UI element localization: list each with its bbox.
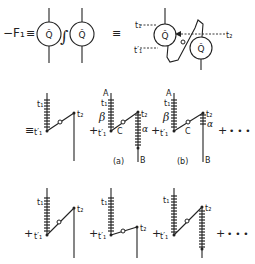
svg-text:t′₁: t′₁	[160, 232, 168, 241]
svg-text:t₁: t₁	[164, 99, 170, 108]
svg-text:A: A	[166, 89, 172, 98]
label-a: (a)	[113, 157, 124, 166]
svg-text:+: +	[151, 124, 160, 137]
svg-text:β: β	[162, 111, 169, 124]
svg-text:t′₁: t′₁	[98, 129, 106, 138]
diagram-b: A t₁ β t′₁ C t₂ α B (b)	[160, 89, 213, 166]
svg-text:t₁: t₁	[37, 198, 43, 207]
row-2-equation: ≡ t₁ t′₁ t₂ +	[25, 89, 251, 166]
diagram-canvas: −F₁ ≡ Q̂ ∫ Q̂ ≡ Q̂ t₁ t′₁ Q̂	[0, 0, 255, 264]
equiv-sign: ≡	[112, 27, 121, 40]
svg-text:+: +	[216, 227, 225, 240]
svg-text:≡: ≡	[25, 124, 34, 137]
equiv-sign: ≡	[26, 27, 35, 40]
svg-text:t₂: t₂	[205, 204, 211, 213]
svg-text:t₂: t₂	[77, 110, 83, 119]
diagram-2-1: t₁ t′₁ t₂	[34, 93, 83, 161]
ellipsis: • • •	[227, 229, 249, 239]
diagram-3-2: t₁ t′₁ t₂	[98, 188, 146, 258]
svg-text:t₂: t₂	[206, 110, 212, 119]
svg-text:Q̂: Q̂	[78, 29, 85, 40]
svg-text:B: B	[140, 156, 146, 165]
loop-bubble-1: Q̂	[37, 8, 61, 63]
lhs-label: −F₁	[3, 26, 25, 40]
svg-text:t₂: t₂	[140, 224, 146, 233]
svg-text:t₁: t₁	[37, 100, 43, 109]
diagram-3-1: t₁ t′₁ t₂	[34, 188, 83, 258]
diagram-a: A t₁ β t′₁ C t₂ α B (a)	[98, 89, 148, 166]
svg-text:t′₁: t′₁	[98, 232, 106, 241]
svg-text:β: β	[98, 111, 105, 124]
svg-text:Q̂: Q̂	[197, 43, 204, 54]
integral-sign: ∫	[60, 27, 68, 46]
svg-text:C: C	[117, 127, 123, 136]
diagram-3-3: t₁ t′₁ t₂	[160, 188, 211, 258]
svg-text:t₂: t₂	[77, 205, 83, 214]
svg-text:A: A	[103, 89, 109, 98]
svg-text:t₂: t₂	[226, 31, 232, 40]
svg-text:α: α	[207, 119, 213, 129]
svg-text:t′₁: t′₁	[34, 128, 42, 137]
svg-text:t₁: t₁	[101, 198, 107, 207]
svg-text:B: B	[205, 156, 211, 165]
svg-text:t′₁: t′₁	[160, 129, 168, 138]
label-b: (b)	[177, 157, 188, 166]
svg-text:+: +	[89, 227, 98, 240]
svg-text:C: C	[185, 127, 191, 136]
row-3-equation: + t₁ t′₁ t₂ +	[24, 188, 249, 258]
svg-text:t′₁: t′₁	[134, 46, 142, 55]
svg-text:t₁: t₁	[101, 99, 107, 108]
svg-text:Q̂: Q̂	[161, 30, 168, 41]
svg-text:+: +	[218, 124, 227, 137]
svg-text:α: α	[142, 124, 148, 134]
svg-text:t₂: t₂	[141, 110, 147, 119]
svg-text:+: +	[24, 227, 33, 240]
ellipsis: • • •	[229, 126, 251, 136]
svg-text:t′₁: t′₁	[34, 232, 42, 241]
svg-text:t₁: t₁	[135, 21, 141, 30]
loop-bubble-2: Q̂	[70, 8, 94, 63]
svg-text:+: +	[89, 124, 98, 137]
svg-text:t₁: t₁	[163, 196, 169, 205]
loop-symbol: Q̂	[45, 29, 52, 40]
row-1-equation: −F₁ ≡ Q̂ ∫ Q̂ ≡ Q̂ t₁ t′₁ Q̂	[3, 8, 232, 70]
loop-composite: Q̂ t₁ t′₁ Q̂ t₂	[134, 8, 232, 70]
